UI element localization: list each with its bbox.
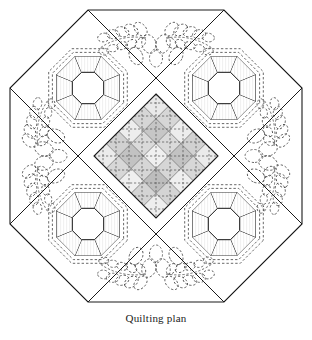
ring-center-open (72, 72, 103, 103)
ring-center-open (72, 208, 103, 239)
quilt-diagram (0, 0, 312, 312)
figure-caption: Quilting plan (0, 312, 312, 324)
ring-center-open (208, 72, 239, 103)
ring-center-open (208, 208, 239, 239)
quilting-plan-figure: Quilting plan (0, 0, 312, 340)
